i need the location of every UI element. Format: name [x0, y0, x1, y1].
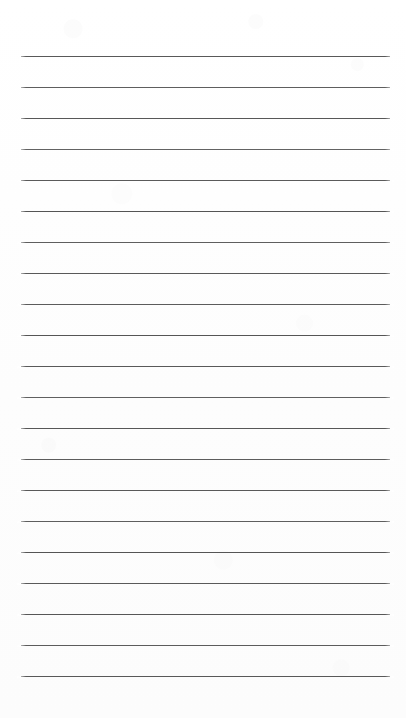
paper-texture-background	[0, 0, 406, 718]
ruled-line	[21, 304, 390, 305]
ruled-line	[21, 366, 390, 367]
ruled-line	[21, 87, 390, 88]
ruled-line	[21, 676, 390, 677]
ruled-line	[21, 211, 390, 212]
ruled-line	[21, 273, 390, 274]
ruled-line	[21, 118, 390, 119]
ruled-line	[21, 180, 390, 181]
ruled-line	[21, 56, 390, 57]
ruled-line	[21, 428, 390, 429]
ruled-line	[21, 459, 390, 460]
ruled-line	[21, 521, 390, 522]
ruled-line	[21, 242, 390, 243]
ruled-line	[21, 490, 390, 491]
lined-paper-page	[0, 0, 406, 718]
ruled-line	[21, 335, 390, 336]
ruled-line	[21, 149, 390, 150]
ruled-line	[21, 645, 390, 646]
ruled-line	[21, 583, 390, 584]
ruled-line	[21, 614, 390, 615]
ruled-line	[21, 397, 390, 398]
ruled-line	[21, 552, 390, 553]
